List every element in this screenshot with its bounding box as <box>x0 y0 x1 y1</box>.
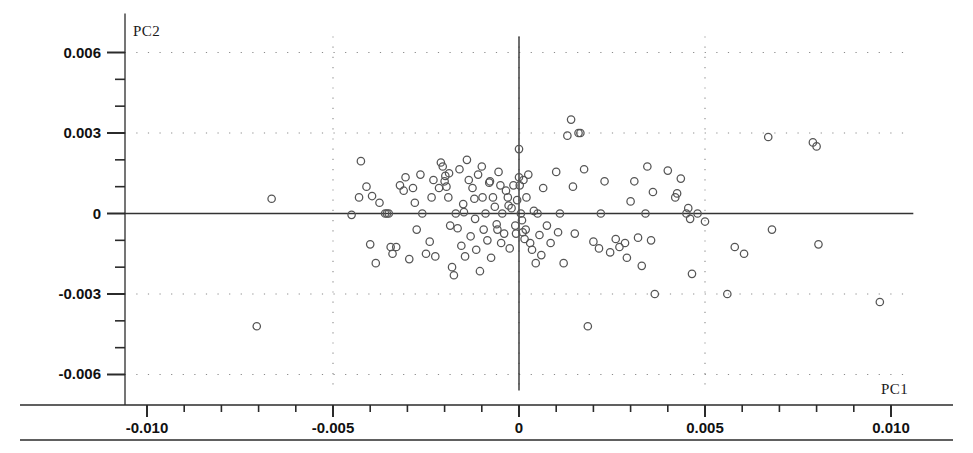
data-point <box>487 254 494 261</box>
y-axis-tick-label: -0.003 <box>58 285 101 302</box>
data-point <box>606 249 613 256</box>
data-point <box>458 242 465 249</box>
data-point <box>677 175 684 182</box>
data-points <box>253 116 884 330</box>
data-point <box>651 290 658 297</box>
data-point <box>506 245 513 252</box>
y-axis-tick-label: 0.003 <box>63 124 101 141</box>
data-point <box>634 234 641 241</box>
data-point <box>456 166 463 173</box>
plot-canvas <box>0 0 973 453</box>
data-point <box>357 157 364 164</box>
data-point <box>528 246 535 253</box>
data-point <box>532 259 539 266</box>
data-point <box>571 230 578 237</box>
data-point <box>367 241 374 248</box>
data-point <box>631 178 638 185</box>
data-point <box>448 263 455 270</box>
data-point <box>428 194 435 201</box>
y-axis-tick-label: 0.006 <box>63 44 101 61</box>
data-point <box>569 183 576 190</box>
data-point <box>564 132 571 139</box>
data-point <box>523 194 530 201</box>
data-point <box>479 194 486 201</box>
origin-axes <box>125 36 914 390</box>
data-point <box>543 222 550 229</box>
data-point <box>413 226 420 233</box>
data-point <box>497 239 504 246</box>
data-point <box>461 253 468 260</box>
data-point <box>484 237 491 244</box>
data-point <box>400 187 407 194</box>
y-axis-tick-label: -0.006 <box>58 365 101 382</box>
data-point <box>368 192 375 199</box>
data-point <box>567 116 574 123</box>
data-point <box>612 235 619 242</box>
data-point <box>686 215 693 222</box>
data-point <box>601 178 608 185</box>
y-axis-tick-label: 0 <box>93 205 101 222</box>
x-axis-tick-label: 0 <box>459 419 579 436</box>
data-point <box>547 239 554 246</box>
data-point <box>560 259 567 266</box>
data-point <box>765 133 772 140</box>
data-point <box>396 182 403 189</box>
data-point <box>731 243 738 250</box>
data-point <box>460 208 467 215</box>
data-point <box>584 323 591 330</box>
data-point <box>504 194 511 201</box>
data-point <box>638 262 645 269</box>
data-point <box>471 215 478 222</box>
x-axis-tick-label: 0.010 <box>831 419 951 436</box>
data-point <box>580 166 587 173</box>
data-point <box>478 163 485 170</box>
data-point <box>426 238 433 245</box>
data-point <box>649 188 656 195</box>
data-point <box>491 203 498 210</box>
data-point <box>539 184 546 191</box>
data-point <box>474 171 481 178</box>
data-point <box>480 226 487 233</box>
data-point <box>500 230 507 237</box>
data-point <box>512 222 519 229</box>
data-point <box>473 246 480 253</box>
data-point <box>402 174 409 181</box>
data-point <box>647 237 654 244</box>
data-point <box>876 298 883 305</box>
data-point <box>494 226 501 233</box>
data-point <box>454 225 461 232</box>
data-point <box>525 171 532 178</box>
data-point <box>688 270 695 277</box>
data-point <box>536 231 543 238</box>
data-point <box>768 226 775 233</box>
data-point <box>430 176 437 183</box>
x-axis-tick-label: -0.005 <box>273 419 393 436</box>
data-point <box>253 323 260 330</box>
data-point <box>417 171 424 178</box>
data-point <box>355 194 362 201</box>
y-axis-title: PC2 <box>133 23 160 40</box>
data-point <box>363 183 370 190</box>
data-point <box>595 245 602 252</box>
data-point <box>372 259 379 266</box>
data-point <box>435 184 442 191</box>
data-point <box>432 253 439 260</box>
data-point <box>538 251 545 258</box>
data-point <box>422 250 429 257</box>
data-point <box>664 167 671 174</box>
data-point <box>467 233 474 240</box>
data-point <box>409 184 416 191</box>
data-point <box>627 198 634 205</box>
data-point <box>740 250 747 257</box>
data-point <box>450 272 457 279</box>
data-point <box>445 194 452 201</box>
data-point <box>489 194 496 201</box>
data-point <box>815 241 822 248</box>
data-point <box>495 168 502 175</box>
data-point <box>446 222 453 229</box>
data-point <box>471 195 478 202</box>
data-point <box>469 184 476 191</box>
data-point <box>348 211 355 218</box>
data-point <box>268 195 275 202</box>
data-point <box>553 168 560 175</box>
